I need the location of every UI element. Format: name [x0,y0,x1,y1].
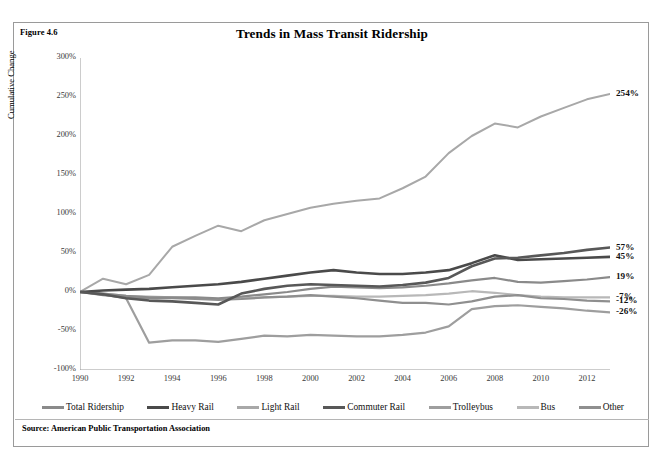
x-tick-label: 1998 [244,375,284,383]
source-divider [15,419,649,420]
legend-label: Light Rail [261,402,299,412]
chart-legend: Total RidershipHeavy RailLight RailCommu… [28,397,638,417]
source-note: Source: American Public Transportation A… [22,424,210,433]
legend-label: Bus [541,402,556,412]
legend-swatch-icon [517,406,539,409]
y-tick-label: 100% [32,209,76,217]
legend-item[interactable]: Light Rail [237,402,299,412]
y-tick-label: 300% [32,53,76,61]
legend-item[interactable]: Total Ridership [42,402,124,412]
x-tick-label: 2002 [337,375,377,383]
figure-box: Figure 4.6 Trends in Mass Transit Riders… [13,22,649,447]
x-tick-label: 2010 [521,375,561,383]
axis-lines [80,58,610,370]
x-tick-label: 2000 [290,375,330,383]
series-lines [80,94,610,343]
chart-title: Trends in Mass Transit Ridership [14,26,650,42]
figure-page: Figure 4.6 Trends in Mass Transit Riders… [0,0,664,461]
y-axis-tick-labels: 300%250%200%150%100%50%0%-50%-100% [24,58,76,370]
legend-swatch-icon [147,406,169,409]
series-end-labels: 19%45%254%57%-26%-7%-12% [610,58,658,370]
x-tick-label: 1996 [198,375,238,383]
series-line [80,292,610,343]
y-tick-label: 50% [32,248,76,256]
y-tick-label: 200% [32,131,76,139]
x-tick-label: 1992 [106,375,146,383]
legend-label: Trolleybus [453,402,493,412]
legend-item[interactable]: Other [579,402,624,412]
y-tick-label: 0% [32,287,76,295]
series-end-label: 254% [616,89,639,98]
legend-label: Total Ridership [66,402,124,412]
y-tick-label: 250% [32,92,76,100]
x-tick-label: 1990 [60,375,100,383]
x-tick-label: 2012 [567,375,607,383]
series-end-label: 45% [616,252,634,261]
series-end-label: 57% [616,243,634,252]
legend-label: Heavy Rail [171,402,213,412]
plot-area [80,58,610,370]
x-axis-tick-labels: 1990199219941996199820002002200420062008… [80,375,610,389]
legend-item[interactable]: Heavy Rail [147,402,213,412]
legend-swatch-icon [429,406,451,409]
x-tick-label: 1994 [152,375,192,383]
series-end-label: -12% [616,296,637,305]
legend-label: Commuter Rail [347,402,405,412]
y-tick-label: 150% [32,170,76,178]
legend-swatch-icon [237,406,259,409]
legend-item[interactable]: Bus [517,402,556,412]
legend-swatch-icon [42,406,64,409]
series-end-label: -26% [616,307,637,316]
series-end-label: 19% [616,272,634,281]
x-tick-label: 2004 [383,375,423,383]
legend-item[interactable]: Trolleybus [429,402,493,412]
legend-item[interactable]: Commuter Rail [323,402,405,412]
x-tick-label: 2008 [475,375,515,383]
legend-label: Other [603,402,624,412]
y-tick-label: -100% [32,365,76,373]
y-axis-title: Cumulative Change [6,51,16,120]
legend-swatch-icon [579,406,601,409]
x-tick-label: 2006 [429,375,469,383]
series-line [80,94,610,292]
y-tick-label: -50% [32,326,76,334]
legend-swatch-icon [323,406,345,409]
line-chart-svg [80,58,610,370]
